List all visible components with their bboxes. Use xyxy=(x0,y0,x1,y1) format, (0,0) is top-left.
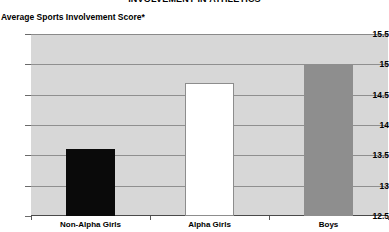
x-axis-tick-mark xyxy=(31,216,32,220)
x-axis-tick-mark xyxy=(150,216,151,220)
y-tick-mark xyxy=(25,64,31,65)
chart-container: INVOLVEMENT IN ATHLETICS Average Sports … xyxy=(0,0,389,232)
bar-boys xyxy=(304,64,353,216)
chart-title: INVOLVEMENT IN ATHLETICS xyxy=(0,0,389,5)
y-tick-label: 14.5 xyxy=(361,90,389,99)
y-tick-mark xyxy=(25,186,31,187)
x-axis-tick-mark xyxy=(269,216,270,220)
bar-alpha-girls xyxy=(185,83,234,216)
x-tick-label: Non-Alpha Girls xyxy=(60,220,121,230)
x-tick-label: Alpha Girls xyxy=(188,220,231,230)
plot-area xyxy=(31,34,388,216)
bar-non-alpha-girls xyxy=(66,149,115,216)
y-tick-mark xyxy=(25,125,31,126)
y-tick-mark xyxy=(25,95,31,96)
y-tick-mark xyxy=(25,34,31,35)
y-tick-label: 15 xyxy=(361,60,389,69)
y-axis-label: Average Sports Involvement Score* xyxy=(1,12,145,22)
x-tick-label: Boys xyxy=(319,220,339,230)
y-tick-mark xyxy=(25,155,31,156)
y-tick-label: 13.5 xyxy=(361,151,389,160)
y-tick-label: 15.5 xyxy=(361,30,389,39)
y-tick-label: 13 xyxy=(361,181,389,190)
y-tick-label: 12.5 xyxy=(361,212,389,221)
y-tick-label: 14 xyxy=(361,121,389,130)
gridline xyxy=(31,34,388,35)
